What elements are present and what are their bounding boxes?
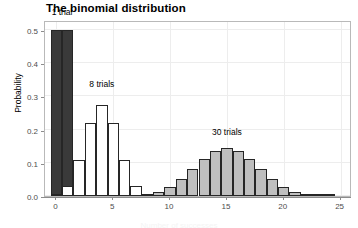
y-axis-tick-label: 0.0 — [27, 193, 38, 202]
x-axis-tick — [55, 197, 56, 200]
bar — [153, 192, 164, 196]
bar — [51, 194, 62, 196]
bar — [199, 159, 210, 196]
plot-panel: 1 trial8 trials30 trials — [44, 21, 351, 197]
bar — [85, 123, 96, 196]
x-axis-tick-label: 20 — [278, 202, 287, 211]
x-axis-tick-label: 15 — [221, 202, 230, 211]
x-axis-tick — [226, 197, 227, 200]
bar — [324, 194, 335, 196]
y-axis-tick-label: 0.4 — [27, 60, 38, 69]
x-axis-tick-label: 10 — [165, 202, 174, 211]
bar — [210, 151, 221, 196]
x-axis-label: Number of successes — [0, 221, 358, 228]
x-axis-tick — [283, 197, 284, 200]
plot-annotation: 8 trials — [89, 79, 114, 89]
y-axis-tick-label: 0.5 — [27, 26, 38, 35]
x-axis-tick-label: 0 — [53, 202, 57, 211]
bar — [312, 194, 323, 196]
bar — [51, 30, 62, 196]
x-axis-tick — [340, 197, 341, 200]
x-axis-tick-label: 5 — [110, 202, 114, 211]
y-axis-tick-label: 0.3 — [27, 93, 38, 102]
bar — [233, 151, 244, 196]
bar — [244, 159, 255, 196]
bars-layer — [45, 22, 350, 196]
bar — [130, 186, 141, 196]
bar — [108, 123, 119, 196]
x-axis-tick-label: 25 — [335, 202, 344, 211]
bar — [73, 160, 84, 196]
bar — [164, 187, 175, 196]
x-axis-line — [44, 197, 351, 198]
bar — [267, 179, 278, 196]
bar — [289, 192, 300, 196]
binomial-distribution-figure: The binomial distribution Probability Nu… — [0, 0, 358, 228]
bar — [255, 169, 266, 196]
plot-annotation: 30 trials — [212, 127, 242, 137]
bar — [187, 169, 198, 196]
bar — [96, 105, 107, 196]
y-axis-tick-label: 0.1 — [27, 159, 38, 168]
x-axis-tick — [112, 197, 113, 200]
y-axis: 0.00.10.20.30.40.5 — [0, 21, 44, 197]
bar — [278, 187, 289, 196]
bar — [176, 179, 187, 196]
bar — [142, 194, 153, 196]
x-axis: 0510152025 — [44, 197, 351, 219]
y-axis-tick-label: 0.2 — [27, 126, 38, 135]
bar — [119, 160, 130, 196]
bar — [62, 30, 73, 196]
x-axis-tick — [169, 197, 170, 200]
bar — [62, 186, 73, 196]
bar — [221, 148, 232, 196]
bar — [301, 194, 312, 196]
plot-annotation: 1 trial — [52, 7, 73, 17]
